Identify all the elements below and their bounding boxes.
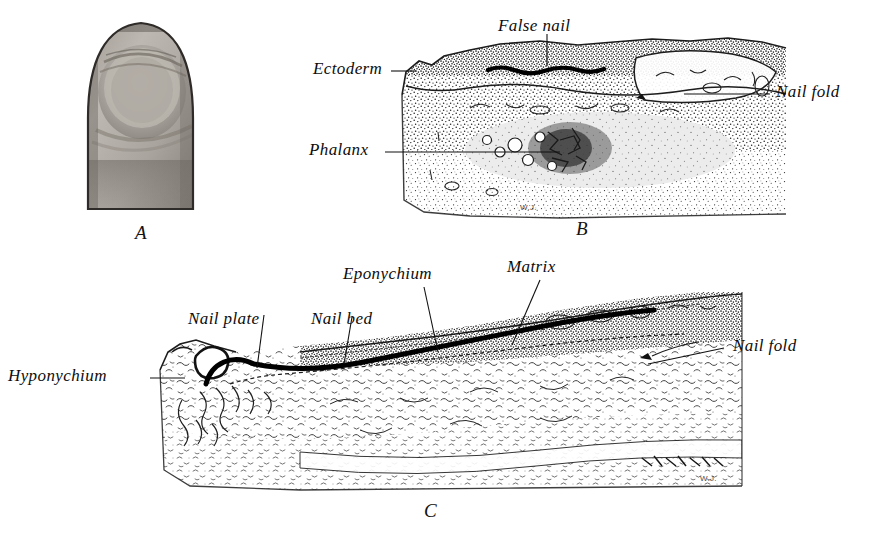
signature-figure-c: W.J. [700,474,717,483]
label-false-nail: False nail [498,16,570,36]
label-nail-fold-b: Nail fold [776,82,840,102]
figure-letter-a: A [135,222,147,244]
label-hyponychium: Hyponychium [8,366,107,386]
signature-figure-b: W.J. [520,203,537,212]
label-eponychium: Eponychium [343,264,432,284]
figure-letter-b: B [576,218,588,240]
anatomical-plate: False nail Ectoderm Nail fold Phalanx Ep… [0,0,893,534]
figure-b-drawing [398,35,790,225]
figure-letter-c: C [424,500,437,522]
label-nail-plate: Nail plate [188,309,260,329]
label-matrix: Matrix [507,257,556,277]
label-nail-fold-c: Nail fold [733,336,797,356]
label-ectoderm: Ectoderm [313,59,382,79]
plate-artwork [0,0,893,534]
label-phalanx: Phalanx [309,140,368,160]
label-nail-bed: Nail bed [311,309,372,329]
